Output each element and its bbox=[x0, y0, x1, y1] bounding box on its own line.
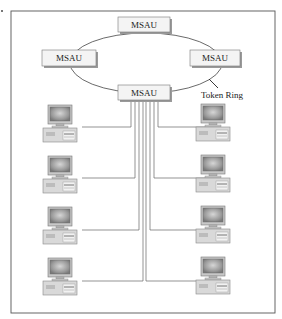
workstation-right-1 bbox=[196, 104, 230, 141]
workstation-right-4 bbox=[196, 257, 230, 294]
workstation-right-2 bbox=[196, 155, 230, 192]
svg-text:MSAU: MSAU bbox=[131, 88, 158, 98]
msau-right: MSAU bbox=[190, 50, 242, 68]
workstation-right-3 bbox=[196, 206, 230, 243]
msau-bottom: MSAU bbox=[118, 85, 172, 102]
workstation-left-2 bbox=[43, 156, 77, 193]
token-ring-diagram: Token Ring MSAU MSAU MSAU MSAU bbox=[0, 0, 282, 319]
workstation-left-1 bbox=[43, 105, 77, 142]
workstation-left-4 bbox=[43, 258, 77, 295]
msau-left: MSAU bbox=[42, 50, 98, 68]
msau-top: MSAU bbox=[118, 17, 172, 34]
token-ring-label: Token Ring bbox=[201, 90, 244, 100]
svg-text:MSAU: MSAU bbox=[56, 53, 83, 63]
svg-text:MSAU: MSAU bbox=[131, 20, 158, 30]
workstation-left-3 bbox=[43, 207, 77, 244]
svg-text:MSAU: MSAU bbox=[202, 53, 229, 63]
